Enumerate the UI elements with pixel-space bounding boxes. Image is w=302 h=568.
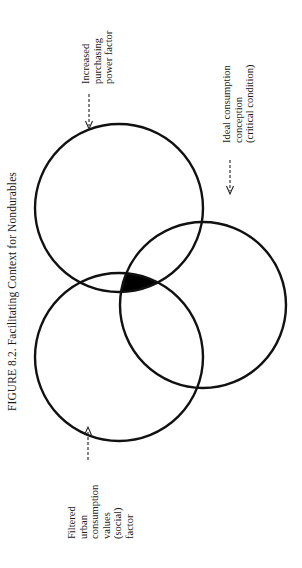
label-line: conception: [233, 65, 245, 143]
label-line: Filtered: [66, 485, 78, 539]
arrow-ideal-consumption: [227, 160, 234, 194]
label-line: factor: [124, 485, 136, 539]
label-line: (critical condition): [244, 65, 256, 143]
label-line: consumption: [89, 485, 101, 539]
label-purchasing-power: Increased purchasing power factor: [80, 31, 115, 84]
label-line: Increased: [80, 31, 92, 84]
label-line: Ideal consumption: [221, 65, 233, 143]
label-line: purchasing: [92, 31, 104, 84]
circle-purchasing-power: [35, 124, 203, 292]
label-line: values: [101, 485, 113, 539]
figure-title: FIGURE 8.2. Facilitating Context for Non…: [6, 172, 18, 411]
label-line: (social): [112, 485, 124, 539]
label-line: urban: [78, 485, 90, 539]
arrow-purchasing-power: [86, 94, 93, 129]
arrow-urban-consumption: [85, 427, 92, 460]
label-urban-consumption: Filtered urban consumption values (socia…: [66, 485, 135, 539]
venn-diagram: [0, 0, 302, 568]
label-line: power factor: [103, 31, 115, 84]
label-ideal-consumption: Ideal consumption conception (critical c…: [221, 65, 256, 143]
circle-urban-consumption: [35, 273, 203, 441]
